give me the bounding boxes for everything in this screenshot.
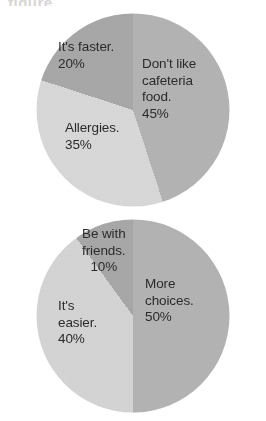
top-pie-chart: It's faster. 20% Don't like cafeteria fo… bbox=[25, 12, 241, 208]
chart-page: figure It's faster. 20% Don't like cafet… bbox=[0, 0, 266, 421]
bottom-slice-label-its-easier: It's easier. 40% bbox=[58, 298, 97, 348]
scan-artifact-text: figure bbox=[8, 0, 118, 6]
top-slice-label-cafeteria-food: Don't like cafeteria food. 45% bbox=[142, 56, 196, 122]
top-slice-label-its-faster: It's faster. 20% bbox=[58, 39, 114, 72]
top-slice-label-allergies: Allergies. 35% bbox=[65, 120, 120, 153]
bottom-slice-label-more-choices: More choices. 50% bbox=[145, 276, 194, 326]
bottom-slice-label-be-with-friends: Be with friends. 10% bbox=[82, 226, 126, 276]
bottom-pie-chart: Be with friends. 10% More choices. 50% I… bbox=[25, 218, 241, 414]
